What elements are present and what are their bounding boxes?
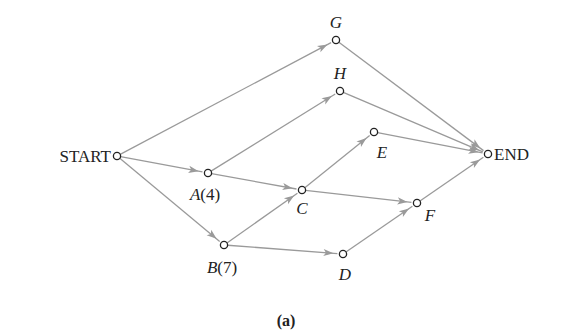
node-label-a: A(4) (189, 185, 220, 204)
node-h (336, 87, 343, 94)
edge-h-end (343, 92, 483, 151)
node-end (484, 150, 491, 157)
node-f (413, 199, 420, 206)
node-c (298, 186, 305, 193)
node-a (204, 169, 211, 176)
figure-caption: (a) (277, 312, 296, 330)
edge-b-d (228, 245, 338, 253)
arrowhead-icon (470, 159, 480, 168)
arrowhead-icon (284, 196, 294, 205)
arrowhead-icon (317, 44, 328, 52)
node-label-g: G (330, 13, 342, 32)
node-label-b: B(7) (207, 258, 237, 277)
node-label-f: F (424, 206, 436, 225)
edge-start-g (120, 43, 331, 155)
node-label-e: E (376, 143, 388, 162)
node-label-d: D (338, 265, 352, 284)
edge-g-end (339, 42, 484, 150)
node-e (370, 128, 377, 135)
node-b (220, 241, 227, 248)
edge-a-h (211, 94, 335, 171)
edge-a-c (212, 174, 297, 189)
edge-d-f (346, 206, 412, 252)
node-label-start: START (60, 147, 112, 166)
edge-b-c (227, 193, 297, 243)
edge-f-end (420, 157, 483, 201)
arrowhead-icon (356, 138, 366, 147)
edge-c-e (305, 136, 370, 188)
node-label-h: H (333, 64, 348, 83)
node-start (113, 152, 120, 159)
arrowhead-icon (399, 208, 409, 217)
node-g (332, 36, 339, 43)
edge-c-f (306, 190, 412, 202)
node-d (339, 250, 346, 257)
node-label-c: C (296, 199, 308, 218)
arrowhead-icon (321, 96, 331, 104)
node-label-end: END (494, 145, 529, 164)
project-network-diagram: STARTGHEENDA(4)CFB(7)D (a) (0, 0, 571, 335)
edge-e-end (378, 133, 483, 153)
